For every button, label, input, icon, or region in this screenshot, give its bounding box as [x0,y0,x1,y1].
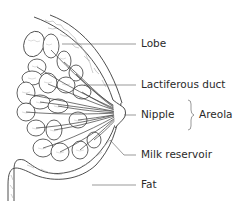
label-lactiferous-duct: Lactiferous duct [141,79,225,90]
label-fat: Fat [141,179,157,190]
label-lobe: Lobe [141,38,166,49]
label-areola: Areola [199,109,233,120]
nipple-shape [113,100,126,128]
areola-brace [188,100,194,130]
label-milk-reservoir: Milk reservoir [141,149,212,160]
leader-milk-reservoir [110,140,136,155]
breast-anatomy-illustration [0,0,246,213]
label-nipple: Nipple [141,109,174,120]
